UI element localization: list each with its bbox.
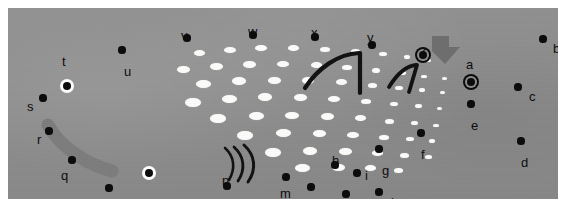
- point-label-c: c: [529, 90, 536, 103]
- point-marker-u: [118, 46, 125, 53]
- point-label-f: f: [421, 148, 425, 161]
- point-label-d: d: [521, 156, 528, 169]
- point-label-j: j: [391, 196, 394, 199]
- point-label-r: r: [37, 133, 41, 146]
- hook-line-near-z: [389, 65, 417, 92]
- point-label-y: y: [367, 31, 374, 44]
- photo-plate: abcdefghijklmnopqrstuvwxyz: [8, 8, 558, 199]
- point-label-i: i: [365, 169, 368, 182]
- overlay-marks: [8, 8, 558, 199]
- point-label-x: x: [311, 26, 318, 39]
- point-label-z: z: [420, 44, 427, 57]
- pointer-arrow-to-a: [432, 36, 460, 64]
- figure-panel: abcdefghijklmnopqrstuvwxyz: [0, 0, 565, 214]
- point-label-n: n: [222, 174, 229, 187]
- point-label-s: s: [27, 100, 34, 113]
- point-label-g: g: [382, 164, 389, 177]
- point-label-a: a: [466, 58, 473, 71]
- hook-line-near-y: [305, 53, 360, 93]
- point-label-b: b: [553, 42, 558, 55]
- curved-gray-arc: [48, 125, 112, 171]
- wave-symbol: [225, 145, 254, 182]
- point-marker-e: [467, 100, 474, 107]
- point-marker-b: [539, 35, 546, 42]
- point-marker-r: [45, 127, 52, 134]
- point-marker-i: [353, 169, 360, 176]
- point-label-w: w: [248, 25, 257, 38]
- point-label-q: q: [61, 169, 68, 182]
- point-label-h: h: [332, 154, 339, 167]
- point-label-u: u: [124, 65, 131, 78]
- point-marker-k: [342, 190, 349, 197]
- point-marker-s: [39, 94, 46, 101]
- point-label-v: v: [181, 29, 188, 42]
- point-label-e: e: [471, 119, 478, 132]
- point-marker-c: [514, 83, 521, 90]
- point-label-m: m: [280, 187, 291, 199]
- point-marker-q: [68, 156, 75, 163]
- point-marker-d: [517, 137, 524, 144]
- point-label-p: p: [101, 198, 108, 199]
- point-marker-f: [417, 129, 424, 136]
- point-marker-j: [375, 188, 382, 195]
- point-marker-m: [282, 173, 289, 180]
- point-marker-p: [105, 184, 112, 191]
- point-marker-l: [307, 183, 314, 190]
- point-label-t: t: [62, 55, 66, 68]
- point-marker-g: [375, 145, 382, 152]
- point-label-l: l: [304, 198, 307, 199]
